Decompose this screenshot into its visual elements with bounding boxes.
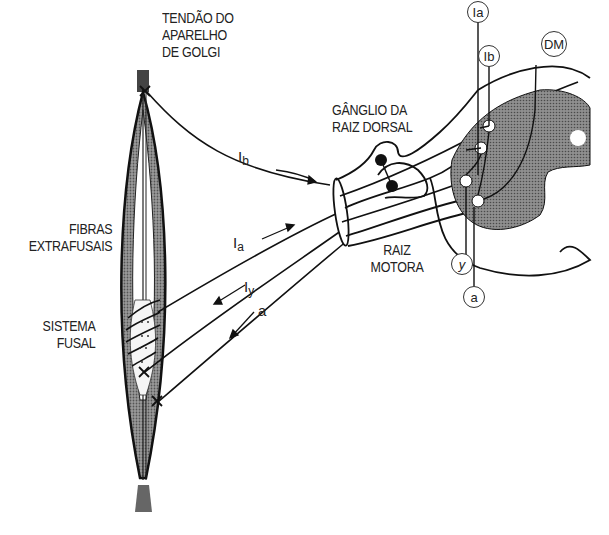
neuron-4 — [472, 195, 484, 207]
marker-dm: DM — [541, 31, 567, 57]
label-line: FUSAL — [43, 335, 96, 352]
fiber-ib — [147, 92, 330, 185]
neuron-3 — [460, 175, 472, 187]
fiber-sub: a — [237, 240, 244, 254]
label-line: RAIZ DORSAL — [332, 119, 412, 136]
marker-text: DM — [544, 37, 564, 52]
label-spindle-system: SISTEMA FUSAL — [43, 318, 96, 352]
marker-text: a — [470, 290, 477, 305]
label-line: APARELHO — [162, 27, 234, 44]
marker-text: Ib — [484, 49, 495, 64]
label-line: DE GOLGI — [162, 44, 234, 61]
label-line: RAIZ — [369, 242, 426, 259]
marker-y: y — [451, 253, 473, 275]
nerve-fibers — [145, 92, 348, 402]
label-golgi-tendon: TENDÃO DO APARELHO DE GOLGI — [162, 10, 234, 61]
fiber-sub: y — [248, 284, 254, 298]
fiber-sub: b — [242, 154, 249, 168]
label-line: FIBRAS — [28, 221, 112, 238]
central-canal — [570, 130, 586, 146]
label-line: GÂNGLIO DA — [332, 102, 412, 119]
label-line: SISTEMA — [43, 318, 96, 335]
fiber-a — [158, 240, 348, 402]
label-motor-root: RAIZ MOTORA — [369, 242, 426, 276]
label-line: TENDÃO DO — [162, 10, 234, 27]
fiber-main: a — [258, 302, 266, 319]
bottom-tendon — [135, 485, 152, 512]
spinal-reflex-diagram — [0, 0, 609, 535]
fiber-label-ib: Ib — [238, 148, 249, 168]
label-extrafusal-fibers: FIBRAS EXTRAFUSAIS — [28, 221, 112, 255]
fiber-label-a: a — [258, 302, 266, 319]
grey-matter — [451, 90, 590, 230]
label-line: EXTRAFUSAIS — [28, 238, 112, 255]
fiber-label-iy: Iy — [244, 278, 254, 298]
label-line: MOTORA — [369, 259, 426, 276]
spinal-cord — [430, 21, 590, 286]
marker-text: y — [459, 257, 466, 272]
marker-text: Ia — [473, 5, 484, 20]
muscle — [121, 70, 165, 512]
fiber-iy — [145, 228, 345, 372]
label-dorsal-root-ganglion: GÂNGLIO DA RAIZ DORSAL — [332, 102, 412, 136]
marker-ib: Ib — [478, 45, 500, 67]
marker-a: a — [463, 286, 485, 308]
fiber-label-ia: Ia — [233, 234, 244, 254]
marker-ia: Ia — [467, 1, 489, 23]
